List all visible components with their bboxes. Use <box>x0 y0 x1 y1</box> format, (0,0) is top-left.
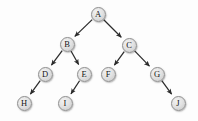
tree-edge-group <box>30 20 171 95</box>
tree-node-j[interactable]: J <box>171 96 186 111</box>
tree-node-label: C <box>126 41 132 50</box>
tree-edge-d-h <box>30 81 40 95</box>
tree-edge-b-d <box>51 51 62 66</box>
tree-edge-b-e <box>71 51 79 64</box>
tree-edge-e-i <box>71 81 80 94</box>
tree-node-f[interactable]: F <box>101 67 116 82</box>
tree-node-c[interactable]: C <box>122 38 137 53</box>
tree-edge-c-g <box>135 51 150 66</box>
tree-edge-a-b <box>75 20 92 37</box>
tree-node-label: D <box>42 70 48 79</box>
tree-node-label: J <box>176 99 179 108</box>
tree-node-label: B <box>64 40 70 49</box>
tree-node-g[interactable]: G <box>150 67 165 82</box>
tree-node-d[interactable]: D <box>38 67 53 82</box>
tree-node-i[interactable]: I <box>58 96 73 111</box>
binary-tree-diagram: ABCDEFGHIJ <box>0 0 198 121</box>
tree-node-h[interactable]: H <box>17 96 32 111</box>
tree-node-b[interactable]: B <box>60 37 75 52</box>
tree-edge-c-f <box>114 52 124 66</box>
tree-edge-a-c <box>104 20 122 38</box>
tree-node-a[interactable]: A <box>91 7 106 22</box>
tree-node-label: G <box>154 70 160 79</box>
tree-node-label: I <box>64 99 67 108</box>
tree-node-label: A <box>95 10 101 18</box>
tree-edge-g-j <box>162 81 172 95</box>
tree-node-label: H <box>21 99 27 108</box>
tree-node-e[interactable]: E <box>77 67 92 82</box>
tree-node-label: F <box>106 70 111 79</box>
tree-node-label: E <box>81 70 86 79</box>
